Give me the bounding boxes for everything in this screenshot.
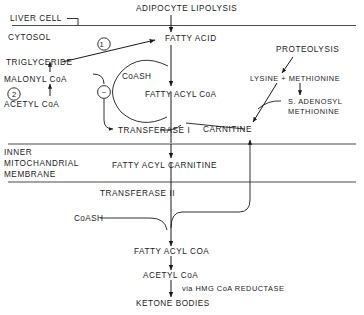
label-s-adenosyl-line2: METHIONINE [288,107,339,116]
label-liver-cell: LIVER CELL [10,14,62,23]
coash-lower-inflow [100,218,167,230]
label-fatty-acyl-coa-lower: FATTY ACYL COA [134,247,209,256]
pathway-canvas: LIVER CELL ADIPOCYTE LIPOLYSIS CYTOSOL F… [0,0,364,315]
label-lysine-methionine: LYSINE + METHIONINE [250,74,340,83]
label-acetyl-coa-cytosol: ACETYL CoA [4,100,59,109]
step-two-number-top: 2 [12,90,16,99]
arrow-lysine-to-carnitine [253,83,277,122]
label-coash-lower: CoASH [74,214,103,223]
label-inner-membrane-line1: INNER [4,148,32,157]
label-adipocyte-lipolysis: ADIPOCYTE LIPOLYSIS [136,4,237,13]
label-ketone-bodies: KETONE BODIES [136,299,210,308]
arrow-proteolysis-to-lysine [282,57,293,73]
step-one-number: 1 [99,40,103,49]
label-transferase-i: TRANSFERASE I [118,126,190,135]
label-cytosol: CYTOSOL [8,33,51,42]
label-inner-membrane-line2: MITOCHANDRIAL [4,159,79,168]
label-transferase-ii: TRANSFERASE II [100,189,175,198]
label-proteolysis: PROTEOLYSIS [276,45,339,54]
label-fatty-acyl-carnitine: FATTY ACYL CARNITINE [112,161,217,170]
label-malonyl-coa: MALONYL CoA [4,75,67,84]
label-s-adenosyl-line1: S. ADENOSYL [288,97,342,106]
inhibition-symbol: − [102,88,107,97]
inhibition-branch-line [93,74,104,84]
pathway-diagram: LIVER CELL ADIPOCYTE LIPOLYSIS CYTOSOL F… [0,0,364,315]
liver-cell-leader-line [67,19,78,26]
label-fatty-acid: FATTY ACID [165,34,217,43]
label-carnitine: CARNITINE [203,125,252,134]
inhibition-arrow-to-transferase-i [104,99,113,129]
label-triglyceride: TRIGLYCERIDE [6,58,73,67]
carnitine-return-loop [171,140,250,228]
label-inner-membrane-line3: MEMBRANE [4,170,56,179]
label-acetyl-coa-mito: ACETYL CoA [143,271,198,280]
label-coash-upper: CoASH [122,72,151,81]
label-via-hmg-coa-reductase: via HMG CoA REDUCTASE [182,284,284,293]
label-fatty-acyl-coa-upper: FATTY ACYL CoA [145,90,217,99]
